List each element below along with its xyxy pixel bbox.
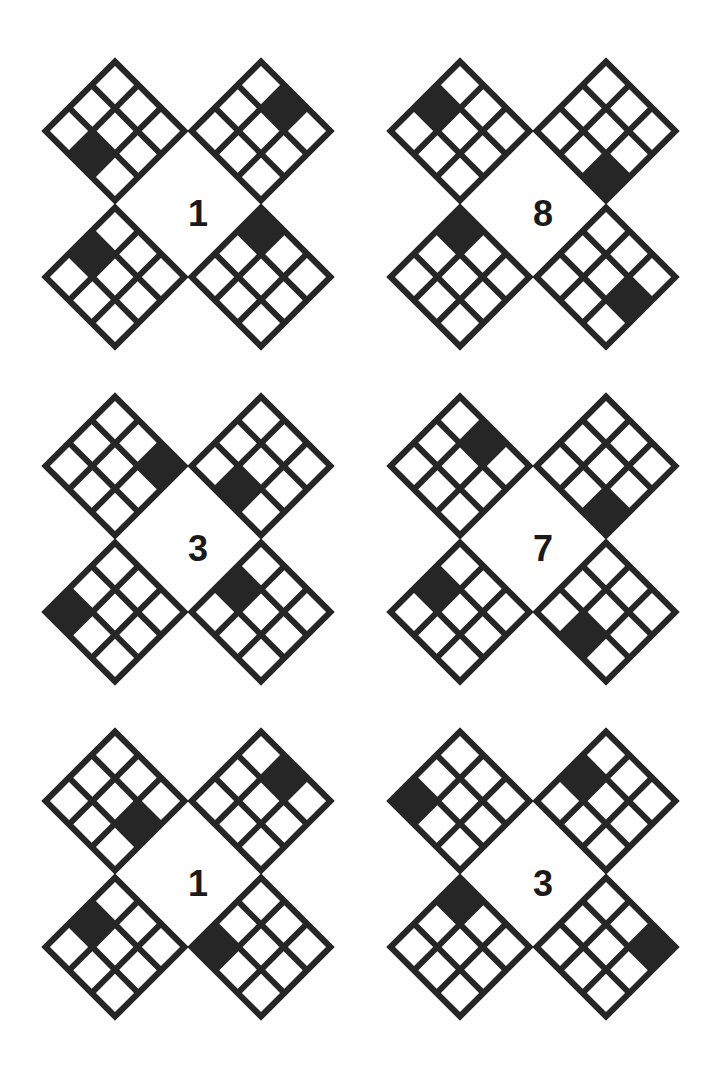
lattice-grid bbox=[41, 873, 188, 1020]
diamond-lattice bbox=[386, 203, 533, 350]
diamond-lattice bbox=[187, 57, 334, 204]
diamond-top-left bbox=[387, 393, 533, 539]
diamond-group: 7 bbox=[387, 393, 687, 693]
diamond-lattice bbox=[41, 392, 188, 539]
diamond-bottom-right bbox=[188, 874, 334, 1020]
diamond-lattice bbox=[41, 727, 188, 874]
diamond-top-right bbox=[533, 58, 679, 204]
lattice-grid bbox=[532, 727, 679, 874]
diamond-lattice bbox=[532, 57, 679, 204]
diamond-lattice bbox=[41, 538, 188, 685]
lattice-grid bbox=[41, 57, 188, 204]
diamond-lattice bbox=[532, 203, 679, 350]
diamond-lattice bbox=[187, 538, 334, 685]
diamond-lattice bbox=[386, 727, 533, 874]
lattice-grid bbox=[187, 392, 334, 539]
diamond-lattice bbox=[187, 392, 334, 539]
diamond-top-left bbox=[42, 728, 188, 874]
diamond-bottom-left bbox=[42, 204, 188, 350]
diamond-lattice bbox=[532, 727, 679, 874]
lattice-grid bbox=[41, 392, 188, 539]
diamond-top-right bbox=[188, 728, 334, 874]
diamond-lattice bbox=[41, 57, 188, 204]
lattice-grid bbox=[532, 538, 679, 685]
diamond-top-left bbox=[387, 728, 533, 874]
diamond-lattice bbox=[41, 873, 188, 1020]
diamond-bottom-right bbox=[533, 874, 679, 1020]
lattice-grid bbox=[386, 203, 533, 350]
lattice-grid bbox=[187, 538, 334, 685]
lattice-grid bbox=[41, 203, 188, 350]
diamond-bottom-left bbox=[387, 874, 533, 1020]
diamond-top-right bbox=[533, 728, 679, 874]
lattice-grid bbox=[386, 57, 533, 204]
diamond-top-left bbox=[387, 58, 533, 204]
diamond-lattice bbox=[386, 57, 533, 204]
lattice-grid bbox=[532, 873, 679, 1020]
diamond-bottom-left bbox=[42, 539, 188, 685]
diamond-bottom-left bbox=[387, 204, 533, 350]
lattice-grid bbox=[187, 203, 334, 350]
lattice-grid bbox=[386, 538, 533, 685]
diamond-top-right bbox=[188, 58, 334, 204]
diamond-bottom-left bbox=[42, 874, 188, 1020]
diamond-top-left bbox=[42, 58, 188, 204]
diamond-lattice bbox=[187, 727, 334, 874]
diamond-lattice bbox=[187, 873, 334, 1020]
lattice-grid bbox=[532, 392, 679, 539]
diamond-lattice bbox=[386, 538, 533, 685]
lattice-grid bbox=[41, 727, 188, 874]
lattice-grid bbox=[187, 57, 334, 204]
diamond-lattice bbox=[187, 203, 334, 350]
lattice-grid bbox=[386, 392, 533, 539]
lattice-grid bbox=[532, 203, 679, 350]
diamond-group: 8 bbox=[387, 58, 687, 358]
diamond-bottom-right bbox=[188, 204, 334, 350]
diamond-bottom-left bbox=[387, 539, 533, 685]
lattice-grid bbox=[386, 727, 533, 874]
diamond-group: 1 bbox=[42, 58, 342, 358]
diamond-lattice bbox=[41, 203, 188, 350]
lattice-grid bbox=[187, 727, 334, 874]
lattice-grid bbox=[532, 57, 679, 204]
diamond-lattice bbox=[386, 873, 533, 1020]
lattice-grid bbox=[187, 873, 334, 1020]
diamond-top-right bbox=[533, 393, 679, 539]
diamond-bottom-right bbox=[533, 539, 679, 685]
diamond-group: 3 bbox=[42, 393, 342, 693]
diamond-lattice bbox=[532, 392, 679, 539]
lattice-grid bbox=[41, 538, 188, 685]
diamond-top-left bbox=[42, 393, 188, 539]
diamond-bottom-right bbox=[533, 204, 679, 350]
diamond-bottom-right bbox=[188, 539, 334, 685]
lattice-grid bbox=[386, 873, 533, 1020]
diamond-group: 1 bbox=[42, 728, 342, 1028]
diamond-lattice bbox=[532, 538, 679, 685]
diamond-lattice bbox=[532, 873, 679, 1020]
diamond-top-right bbox=[188, 393, 334, 539]
puzzle-sheet: 183713 bbox=[0, 0, 723, 1081]
diamond-lattice bbox=[386, 392, 533, 539]
diamond-group: 3 bbox=[387, 728, 687, 1028]
